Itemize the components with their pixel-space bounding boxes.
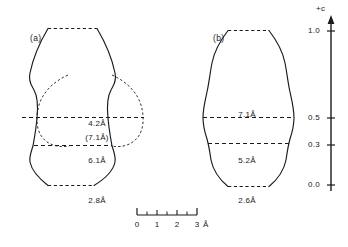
panel-b-dimension-label-3: 2.6Å xyxy=(238,196,256,205)
figure-canvas xyxy=(0,0,348,247)
c-axis-label-0p0: 0.0 xyxy=(308,180,320,189)
panel-b-dimension-label-2: 5.2Å xyxy=(238,156,256,165)
scale-bar-label-3: 3 xyxy=(195,220,200,229)
panel-a-tag: (a) xyxy=(30,33,41,43)
panel-a-dimension-label-3: 6.1Å xyxy=(88,156,106,165)
scale-bar xyxy=(137,208,197,215)
scale-bar-unit-label: Å xyxy=(203,220,209,229)
panel-b-left-profile xyxy=(203,31,228,187)
panel-a-dimension-label-1: 4.2Å xyxy=(88,119,106,128)
c-axis-label-1p0: 1.0 xyxy=(308,26,320,35)
panel-b-tag: (b) xyxy=(213,33,224,43)
scale-bar-label-1: 1 xyxy=(155,220,160,229)
c-axis-label-0p3: 0.3 xyxy=(308,140,320,149)
panel-a-left-profile xyxy=(29,29,48,186)
panel-a-right-lens-dashed xyxy=(111,75,143,147)
panel-b-right-profile xyxy=(269,31,294,187)
c-axis-arrowhead-icon xyxy=(328,15,335,24)
scale-bar-label-2: 2 xyxy=(175,220,180,229)
panel-a-left-lens-dashed xyxy=(37,75,69,147)
c-axis xyxy=(327,15,335,191)
c-axis-label-0p5: 0.5 xyxy=(308,113,320,122)
panel-b-dimension-label-1: 7.1Å xyxy=(238,110,256,119)
c-axis-title: +c xyxy=(316,4,325,13)
panel-a-dimension-label-4: 2.8Å xyxy=(88,196,106,205)
scale-bar-label-0: 0 xyxy=(135,220,140,229)
panel-a xyxy=(22,29,144,186)
panel-a-dimension-label-2: (7.1Å) xyxy=(85,133,109,142)
